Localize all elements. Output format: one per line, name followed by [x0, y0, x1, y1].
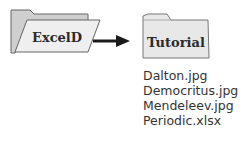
source-folder-label: ExcelD — [32, 30, 82, 45]
file-item: Mendeleev.jpg — [143, 98, 238, 113]
file-item: Dalton.jpg — [143, 68, 238, 83]
file-item: Democritus.jpg — [143, 83, 238, 98]
target-folder-label: Tutorial — [147, 35, 205, 50]
file-list: Dalton.jpg Democritus.jpg Mendeleev.jpg … — [143, 68, 238, 128]
arrow-right-icon — [93, 35, 130, 47]
file-item: Periodic.xlsx — [143, 113, 238, 128]
